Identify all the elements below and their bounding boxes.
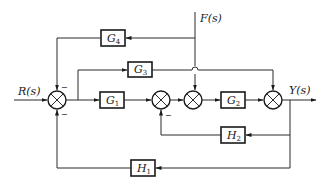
disturbance-label: F(s) — [199, 12, 222, 25]
block-g3: G3 — [128, 62, 152, 77]
block-diagram: R(s) − − G1 − G2 Y(s) — [0, 0, 326, 190]
summing-junction-2 — [152, 91, 170, 109]
sum2-bottom-sign: − — [165, 111, 172, 120]
block-g1: G1 — [100, 92, 124, 108]
summing-junction-4 — [264, 91, 282, 109]
block-g4: G4 — [101, 30, 125, 46]
summing-junction-3 — [184, 91, 202, 109]
block-h2: H2 — [221, 127, 245, 143]
input-label: R(s) — [17, 85, 41, 98]
block-h1: H1 — [131, 160, 155, 176]
output-label: Y(s) — [289, 84, 311, 97]
sum1-top-sign: − — [61, 83, 68, 92]
summing-junction-1 — [48, 91, 66, 109]
block-g2: G2 — [221, 92, 245, 108]
h1-to-sum1-line — [57, 110, 131, 168]
sum1-bottom-sign: − — [61, 110, 68, 119]
g3-to-sum4-line — [152, 67, 273, 90]
